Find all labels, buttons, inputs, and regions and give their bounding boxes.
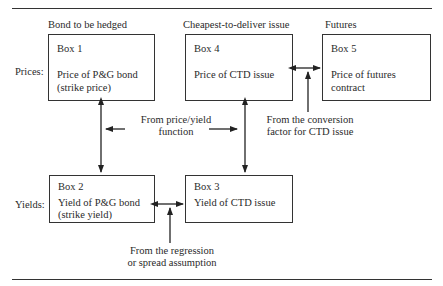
arrows-layer [0,0,443,286]
